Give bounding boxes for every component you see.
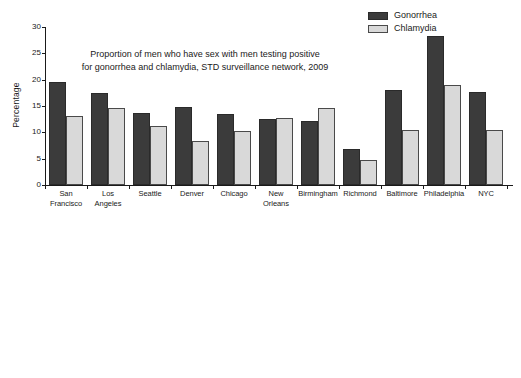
bar bbox=[385, 90, 402, 185]
y-tick-label: 25 bbox=[19, 49, 41, 57]
bar bbox=[108, 108, 125, 185]
legend-label-gonorrhea: Gonorrhea bbox=[394, 10, 437, 21]
bar bbox=[318, 108, 335, 185]
bar bbox=[301, 121, 318, 185]
bar bbox=[217, 114, 234, 185]
bar bbox=[276, 118, 293, 185]
bar bbox=[175, 107, 192, 185]
bar bbox=[469, 92, 486, 185]
bar bbox=[49, 82, 66, 185]
bar bbox=[234, 131, 251, 185]
bar bbox=[91, 93, 108, 185]
legend-entry-gonorrhea: Gonorrhea bbox=[368, 9, 437, 22]
y-tick-label: 10 bbox=[19, 128, 41, 136]
bar bbox=[150, 126, 167, 185]
y-tick-label: 20 bbox=[19, 76, 41, 84]
bar bbox=[360, 160, 377, 185]
y-tick-label: 15 bbox=[19, 102, 41, 110]
x-tick-mark bbox=[507, 186, 508, 189]
bar bbox=[343, 149, 360, 185]
bar bbox=[259, 119, 276, 185]
y-tick-label: 5 bbox=[19, 155, 41, 163]
bar bbox=[444, 85, 461, 185]
std-surveillance-figure: Gonorrhea Chlamydia Proportion of men wh… bbox=[0, 0, 521, 378]
bar bbox=[66, 116, 83, 185]
bar bbox=[427, 36, 444, 185]
chart-primary-secondary-syphilis: Proportion of men who have sex with men … bbox=[0, 215, 521, 378]
bar bbox=[133, 113, 150, 185]
legend-swatch-gonorrhea bbox=[368, 12, 388, 20]
bar bbox=[402, 130, 419, 185]
bar bbox=[486, 130, 503, 185]
x-tick-label: NYC bbox=[461, 189, 511, 199]
y-tick-label: 0 bbox=[19, 181, 41, 189]
y-tick-label: 30 bbox=[19, 23, 41, 31]
plot-area-gonorrhea-chlamydia bbox=[45, 27, 507, 185]
x-axis-line-gonorrhea-chlamydia bbox=[45, 185, 513, 186]
chart-gonorrhea-chlamydia: Gonorrhea Chlamydia Proportion of men wh… bbox=[0, 0, 521, 213]
bar bbox=[192, 141, 209, 185]
